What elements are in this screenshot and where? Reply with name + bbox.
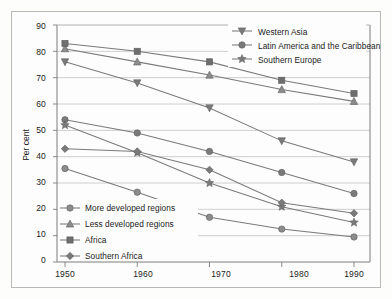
y-tick-0: 0	[32, 255, 46, 265]
y-tick-90: 90	[32, 21, 46, 31]
x-tick-1950: 1950	[55, 269, 75, 279]
legend-bottom-item-southern-africa: Southern Africa	[85, 251, 142, 261]
y-axis-title: Per cent	[21, 115, 31, 175]
legend-bottom-item-less-developed: Less developed regions	[85, 219, 174, 229]
y-tick-10: 10	[32, 229, 46, 239]
legend-bottom-item-more-developed: More developed regions	[85, 203, 175, 213]
x-tick-1970: 1970	[211, 269, 231, 279]
legend-bottom-item-africa: Africa	[85, 235, 107, 245]
x-tick-1990: 1990	[344, 269, 364, 279]
y-tick-40: 40	[32, 151, 46, 161]
chart-figure: 90 80 70 60 50 40 30 20 10 0 1950 1960 1…	[0, 0, 392, 299]
y-tick-70: 70	[32, 73, 46, 83]
y-tick-60: 60	[32, 99, 46, 109]
x-tick-1960: 1960	[133, 269, 153, 279]
legend-top-item-southern-europe: Southern Europe	[258, 55, 321, 65]
y-tick-50: 50	[32, 125, 46, 135]
x-tick-1980: 1980	[289, 269, 309, 279]
y-tick-20: 20	[32, 203, 46, 213]
y-tick-30: 30	[32, 177, 46, 187]
legend-top-item-latin-america: Latin America and the Caribbean	[258, 41, 380, 51]
legend-top-item-western-asia: Western Asia	[258, 27, 307, 37]
y-tick-80: 80	[32, 47, 46, 57]
